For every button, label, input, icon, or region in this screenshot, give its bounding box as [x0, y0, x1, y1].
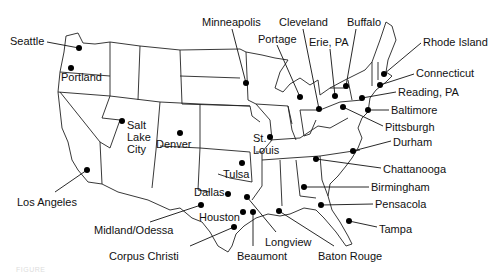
us-city-map: SeattlePortlandSalt Lake CityDenverMinne… — [0, 0, 496, 274]
city-dot-tulsa — [239, 160, 245, 166]
city-dot-midland-odessa — [198, 202, 204, 208]
city-label-tampa: Tampa — [379, 223, 412, 235]
city-label-portage: Portage — [258, 33, 297, 45]
city-label-chattanooga: Chattanooga — [383, 163, 446, 175]
city-dot-longview — [244, 194, 250, 200]
city-label-los-angeles: Los Angeles — [17, 196, 77, 208]
city-label-houston: Houston — [199, 211, 240, 223]
city-dot-baton-rouge — [276, 208, 282, 214]
city-label-durham: Durham — [393, 136, 432, 148]
city-dot-dallas — [225, 191, 231, 197]
figure-caption: FIGURE — [16, 266, 45, 273]
city-dot-birmingham — [301, 184, 307, 190]
city-dot-pittsburgh — [340, 104, 346, 110]
city-label-reading-pa: Reading, PA — [398, 86, 459, 98]
city-dot-salt-lake-city — [119, 118, 125, 124]
city-label-st-louis: St. Louis — [253, 132, 279, 156]
city-label-beaumont: Beaumont — [237, 250, 287, 262]
city-label-portland: Portland — [61, 71, 102, 83]
city-dot-houston — [240, 209, 246, 215]
city-label-pensacola: Pensacola — [375, 198, 426, 210]
city-dot-tampa — [346, 218, 352, 224]
city-dot-reading-pa — [359, 95, 365, 101]
city-label-corpus-christi: Corpus Christi — [109, 250, 179, 262]
city-label-salt-lake-city: Salt Lake City — [127, 119, 151, 155]
city-dot-erie-pa — [332, 93, 338, 99]
city-label-seattle: Seattle — [10, 35, 44, 47]
city-dot-seattle — [76, 45, 82, 51]
city-label-tulsa: Tulsa — [223, 168, 250, 180]
city-label-erie-pa: Erie, PA — [309, 36, 349, 48]
city-dot-portage — [297, 94, 303, 100]
city-label-minneapolis: Minneapolis — [202, 16, 261, 28]
city-dot-buffalo — [343, 83, 349, 89]
city-dot-baltimore — [365, 107, 371, 113]
city-label-baton-rouge: Baton Rouge — [318, 250, 382, 262]
city-label-dallas: Dallas — [194, 186, 225, 198]
city-label-midland-odessa: Midland/Odessa — [94, 224, 174, 236]
city-label-cleveland: Cleveland — [279, 16, 328, 28]
city-dot-minneapolis — [243, 80, 249, 86]
city-label-rhode-island: Rhode Island — [423, 36, 488, 48]
city-dot-denver — [177, 130, 183, 136]
city-label-denver: Denver — [156, 138, 191, 150]
city-dot-beaumont — [250, 209, 256, 215]
city-dot-los-angeles — [84, 167, 90, 173]
city-label-connecticut: Connecticut — [416, 67, 474, 79]
city-dot-connecticut — [377, 82, 383, 88]
city-dot-cleveland — [316, 106, 322, 112]
city-dot-pensacola — [318, 202, 324, 208]
city-label-longview: Longview — [265, 236, 311, 248]
city-label-baltimore: Baltimore — [391, 104, 437, 116]
city-label-pittsburgh: Pittsburgh — [385, 121, 435, 133]
city-dot-durham — [350, 148, 356, 154]
city-label-buffalo: Buffalo — [347, 16, 381, 28]
city-dot-corpus-christi — [231, 224, 237, 230]
city-dot-rhode-island — [381, 71, 387, 77]
city-dot-chattanooga — [313, 156, 319, 162]
city-label-birmingham: Birmingham — [371, 181, 430, 193]
